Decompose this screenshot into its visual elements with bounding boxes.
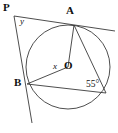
point-label-a: A: [66, 5, 74, 16]
point-label-p: P: [3, 2, 10, 13]
angle-label-y: y: [20, 17, 24, 26]
geometry-canvas: [0, 0, 118, 133]
geometry-figure: P A B O x y 55°: [0, 0, 118, 133]
angle-label-55-degrees: 55°: [86, 80, 99, 90]
center-label-o: O: [64, 60, 73, 71]
radius-ob: [27, 67, 68, 84]
tangent-line-pb: [14, 16, 32, 123]
angle-label-x: x: [53, 62, 57, 71]
point-label-b: B: [14, 77, 21, 88]
tangent-line-pa: [14, 16, 115, 31]
